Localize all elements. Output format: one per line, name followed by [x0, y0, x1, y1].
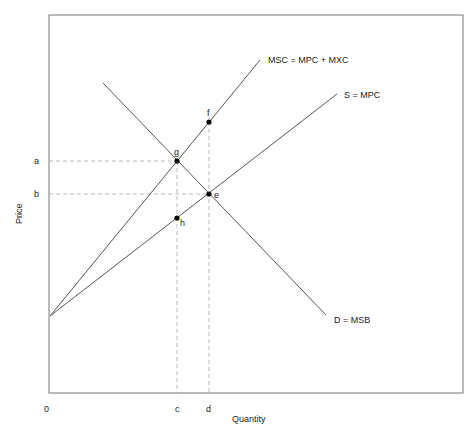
- label-h: h: [180, 218, 185, 228]
- tick-a: a: [34, 156, 39, 166]
- guide-lines: [49, 122, 209, 393]
- point-h: [174, 215, 179, 220]
- s-label: S = MPC: [344, 90, 381, 100]
- d-label: D = MSB: [334, 315, 370, 325]
- externality-diagram: MSC = MPC + MXC S = MPC D = MSB f g e h …: [0, 0, 474, 434]
- point-g: [174, 158, 179, 163]
- tick-d: d: [206, 404, 211, 414]
- x-axis-label: Quantity: [232, 414, 266, 424]
- label-f: f: [207, 108, 210, 118]
- msc-label: MSC = MPC + MXC: [268, 55, 349, 65]
- y-axis-label: Price: [14, 203, 24, 224]
- point-e: [206, 191, 211, 196]
- plot-frame: [49, 15, 463, 393]
- tick-b: b: [34, 189, 39, 199]
- label-g: g: [174, 147, 179, 157]
- tick-origin: 0: [44, 404, 49, 414]
- point-f: [206, 119, 211, 124]
- tick-c: c: [175, 404, 180, 414]
- mpc-supply-curve: [50, 94, 337, 316]
- msc-curve: [50, 60, 260, 316]
- label-e: e: [214, 190, 219, 200]
